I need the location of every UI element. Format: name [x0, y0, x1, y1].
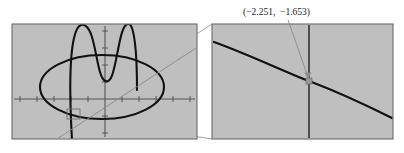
left-panel[interactable]	[12, 24, 197, 150]
marked-point[interactable]	[306, 78, 312, 84]
figure-canvas: (−2.251, −1.653)	[0, 0, 404, 153]
right-panel-background	[212, 24, 393, 139]
zoom-figure: (−2.251, −1.653)	[0, 0, 404, 153]
point-coordinate-label: (−2.251, −1.653)	[243, 7, 310, 18]
right-panel[interactable]	[212, 24, 393, 139]
